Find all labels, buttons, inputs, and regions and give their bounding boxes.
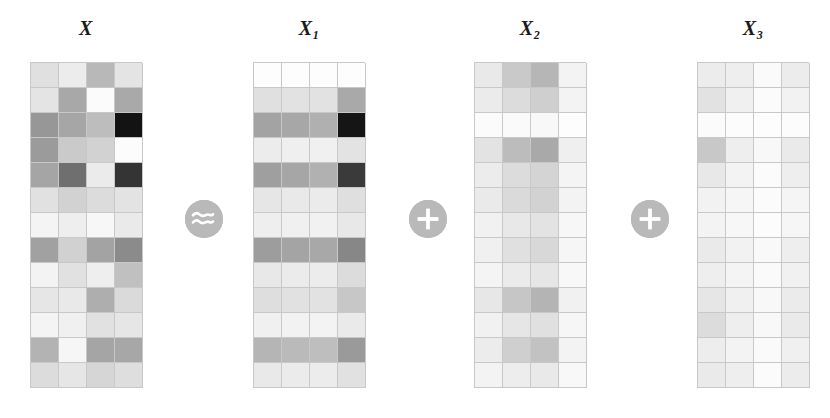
approximately-equal-icon (185, 200, 223, 238)
matrix-cell (254, 238, 282, 263)
matrix-cell (310, 238, 338, 263)
matrix-cell (87, 188, 115, 213)
matrix-cell (698, 338, 726, 363)
matrix-cell (115, 188, 143, 213)
matrix-cell (559, 138, 587, 163)
matrix-cell (698, 163, 726, 188)
matrix-cell (531, 163, 559, 188)
matrix-cell (531, 138, 559, 163)
matrix-cell (87, 363, 115, 388)
matrix-cell (782, 188, 810, 213)
matrix-cell (503, 113, 531, 138)
matrix-cell (338, 88, 366, 113)
matrix-cell (754, 313, 782, 338)
matrix-cell (698, 138, 726, 163)
matrix-cell (282, 238, 310, 263)
plus-icon (409, 200, 447, 238)
matrix-cell (698, 363, 726, 388)
matrix-cell (726, 88, 754, 113)
matrix-cell (559, 263, 587, 288)
matrix-cell (31, 338, 59, 363)
matrix-cell (782, 88, 810, 113)
matrix-block-x2: X2 (474, 0, 586, 418)
matrix-cell (310, 338, 338, 363)
matrix-cell (754, 238, 782, 263)
matrix-cell (475, 313, 503, 338)
matrix-cell (338, 113, 366, 138)
matrix-cell (782, 213, 810, 238)
matrix-grid-x3 (697, 62, 809, 388)
matrix-label-x3-base: X (743, 17, 757, 39)
matrix-cell (282, 188, 310, 213)
matrix-cell (475, 238, 503, 263)
matrix-cell (503, 138, 531, 163)
matrix-label-x3-subscript: 3 (757, 28, 764, 42)
matrix-cell (338, 63, 366, 88)
matrix-cell (310, 138, 338, 163)
matrix-cell (782, 63, 810, 88)
matrix-cell (531, 363, 559, 388)
matrix-label-x1-subscript: 1 (313, 28, 320, 42)
matrix-cell (310, 63, 338, 88)
matrix-cell (782, 113, 810, 138)
matrix-cell (726, 113, 754, 138)
matrix-cell (310, 263, 338, 288)
matrix-cell (726, 263, 754, 288)
matrix-cell (254, 63, 282, 88)
matrix-cell (559, 163, 587, 188)
matrix-cell (559, 363, 587, 388)
matrix-cell (282, 363, 310, 388)
matrix-cell (115, 238, 143, 263)
matrix-cell (282, 338, 310, 363)
matrix-cell (698, 288, 726, 313)
matrix-cell (503, 263, 531, 288)
matrix-cell (59, 363, 87, 388)
matrix-cell (338, 138, 366, 163)
matrix-cell (559, 338, 587, 363)
matrix-cell (59, 338, 87, 363)
matrix-cell (503, 313, 531, 338)
matrix-cell (559, 313, 587, 338)
matrix-cell (115, 138, 143, 163)
matrix-cell (698, 88, 726, 113)
matrix-cell (782, 238, 810, 263)
matrix-cell (475, 288, 503, 313)
matrix-cell (726, 213, 754, 238)
matrix-cell (87, 213, 115, 238)
matrix-cell (282, 288, 310, 313)
matrix-cell (59, 288, 87, 313)
matrix-cell (282, 263, 310, 288)
matrix-cell (338, 363, 366, 388)
matrix-cell (782, 288, 810, 313)
matrix-cell (338, 213, 366, 238)
matrix-cell (310, 213, 338, 238)
matrix-cell (31, 313, 59, 338)
matrix-grid-x (30, 62, 142, 388)
matrix-cell (310, 313, 338, 338)
matrix-cell (531, 113, 559, 138)
matrix-cell (87, 138, 115, 163)
matrix-cell (726, 63, 754, 88)
matrix-cell (282, 113, 310, 138)
matrix-cell (59, 138, 87, 163)
matrix-label-x2-base: X (520, 17, 534, 39)
matrix-cell (282, 63, 310, 88)
matrix-cell (87, 313, 115, 338)
matrix-cell (698, 238, 726, 263)
matrix-cell (87, 163, 115, 188)
matrix-cell (31, 63, 59, 88)
matrix-cell (310, 113, 338, 138)
matrix-cell (59, 188, 87, 213)
matrix-cell (503, 213, 531, 238)
matrix-cell (282, 88, 310, 113)
matrix-cell (475, 138, 503, 163)
matrix-label-x3: X3 (697, 18, 809, 38)
matrix-cell (726, 188, 754, 213)
matrix-cell (726, 288, 754, 313)
matrix-block-x: X (30, 0, 142, 418)
matrix-cell (59, 213, 87, 238)
matrix-cell (782, 263, 810, 288)
matrix-cell (338, 338, 366, 363)
matrix-cell (115, 88, 143, 113)
matrix-cell (503, 63, 531, 88)
